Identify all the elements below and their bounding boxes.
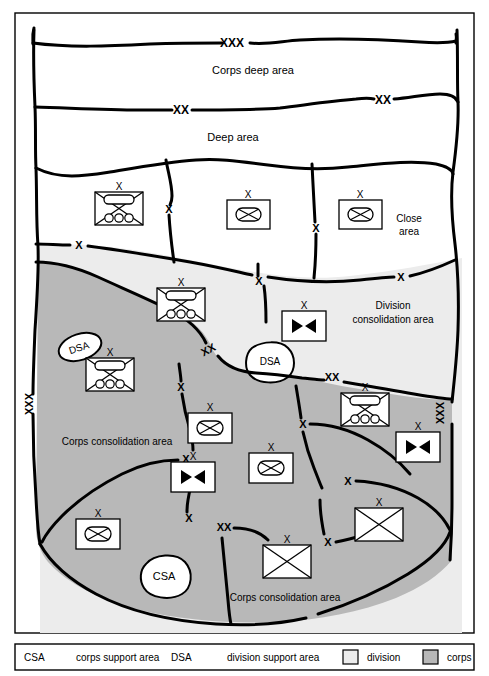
armor-track-oval-icon bbox=[95, 361, 125, 370]
motorized-wheel-icon bbox=[371, 415, 379, 423]
echelon-x: X bbox=[190, 451, 197, 462]
marker-x-close-left-bdy: X bbox=[165, 203, 173, 215]
echelon-x: X bbox=[116, 181, 123, 192]
marker-x-close-leftedge: X bbox=[75, 239, 83, 251]
armor-track-oval-icon bbox=[104, 195, 134, 204]
marker-x-div-mid: X bbox=[255, 275, 263, 287]
legend-swatch-division bbox=[343, 650, 358, 664]
armor-track-oval-icon bbox=[166, 291, 196, 300]
label-division-consolidation-line1: Division bbox=[375, 300, 410, 311]
marker-x-div-right: X bbox=[397, 271, 405, 283]
echelon-x: X bbox=[178, 277, 185, 288]
motorized-wheel-icon bbox=[177, 310, 185, 318]
legend-csa-desc: corps support area bbox=[76, 652, 160, 663]
echelon-x: X bbox=[301, 300, 308, 311]
legend-label-division: division bbox=[367, 652, 400, 663]
label-corps-deep-area: Corps deep area bbox=[212, 64, 295, 76]
echelon-x: X bbox=[245, 189, 252, 200]
legend-dsa-abbr: DSA bbox=[171, 652, 192, 663]
marker-x-corps-bottom-right: X bbox=[324, 536, 332, 548]
symbol-frame bbox=[396, 432, 440, 462]
motorized-wheel-icon bbox=[351, 415, 359, 423]
echelon-x: X bbox=[376, 497, 383, 508]
echelon-x: X bbox=[95, 508, 102, 519]
echelon-x: X bbox=[207, 402, 214, 413]
echelon-x: X bbox=[362, 382, 369, 393]
motorized-wheel-icon bbox=[125, 214, 133, 222]
motorized-wheel-icon bbox=[361, 415, 369, 423]
marker-x-corps-mid: X bbox=[299, 418, 307, 430]
marker-xxx-right-edge: XXX bbox=[434, 401, 446, 424]
legend-dsa-desc: division support area bbox=[227, 652, 320, 663]
tactical-areas-diagram: DSA DSA CSA Corps deep area Deep area Cl… bbox=[0, 0, 489, 676]
marker-x-corps-bottom-left: X bbox=[185, 512, 193, 524]
echelon-x: X bbox=[415, 421, 422, 432]
diagram-root: DSA DSA CSA Corps deep area Deep area Cl… bbox=[0, 0, 489, 676]
marker-xx-deep-left: XX bbox=[173, 103, 189, 117]
legend-csa-abbr: CSA bbox=[24, 652, 45, 663]
echelon-x: X bbox=[107, 347, 114, 358]
legend-swatch-corps bbox=[423, 650, 438, 664]
boundary-close-rear-left bbox=[36, 244, 70, 245]
motorized-wheel-icon bbox=[106, 380, 114, 388]
marker-xxx-top: XXX bbox=[220, 36, 244, 50]
label-division-consolidation-line2: consolidation area bbox=[352, 314, 434, 325]
marker-xx-deep-right: XX bbox=[375, 93, 391, 107]
label-close-area-line2: area bbox=[399, 226, 419, 237]
motorized-wheel-icon bbox=[167, 310, 175, 318]
marker-xx-div-right: XX bbox=[325, 371, 340, 383]
marker-xx-corps-bottom: XX bbox=[217, 521, 232, 533]
marker-x-corps-left-vert: X bbox=[177, 381, 185, 393]
symbol-frame bbox=[171, 462, 215, 492]
legend: CSA corps support area DSA division supp… bbox=[15, 644, 474, 670]
echelon-x: X bbox=[284, 534, 291, 545]
echelon-x: X bbox=[268, 442, 275, 453]
marker-x-corps-lower: X bbox=[344, 475, 352, 487]
label-corps-consolidation-left: Corps consolidation area bbox=[62, 436, 173, 447]
marker-x-close-right-bdy: X bbox=[312, 222, 320, 234]
dsa-center-label: DSA bbox=[260, 356, 281, 367]
motorized-wheel-icon bbox=[116, 380, 124, 388]
echelon-x: X bbox=[357, 189, 364, 200]
motorized-wheel-icon bbox=[96, 380, 104, 388]
motorized-wheel-icon bbox=[105, 214, 113, 222]
motorized-wheel-icon bbox=[115, 214, 123, 222]
legend-label-corps: corps bbox=[447, 652, 471, 663]
symbol-frame bbox=[282, 311, 326, 341]
armor-track-oval-icon bbox=[350, 396, 380, 405]
marker-xxx-left-edge: XXX bbox=[23, 392, 35, 415]
label-corps-consolidation-bottom: Corps consolidation area bbox=[230, 592, 341, 603]
label-deep-area: Deep area bbox=[207, 131, 259, 143]
motorized-wheel-icon bbox=[187, 310, 195, 318]
csa-bottom-label: CSA bbox=[153, 570, 176, 582]
label-close-area-line1: Close bbox=[396, 213, 422, 224]
